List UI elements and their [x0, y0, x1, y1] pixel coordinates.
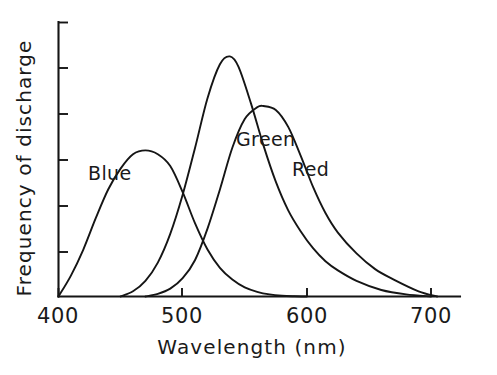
x-tick-label-600: 600 — [286, 304, 328, 328]
y-axis-title: Frequency of discharge — [12, 40, 36, 297]
x-axis-ticks — [59, 288, 432, 297]
x-tick-label-700: 700 — [410, 304, 452, 328]
y-axis-ticks — [59, 23, 69, 253]
x-tick-label-400: 400 — [37, 304, 79, 328]
chart-figure: 400 500 600 700 Wavelength (nm) Frequenc… — [0, 0, 497, 375]
curve-green — [121, 56, 431, 296]
x-tick-label-500: 500 — [161, 304, 203, 328]
x-axis-title: Wavelength (nm) — [157, 335, 346, 359]
x-tick-labels: 400 500 600 700 — [37, 304, 452, 328]
line-chart-svg: 400 500 600 700 Wavelength (nm) Frequenc… — [0, 0, 497, 375]
curve-label-blue: Blue — [88, 162, 132, 184]
curve-label-red: Red — [292, 158, 329, 180]
curve-label-green: Green — [236, 128, 296, 150]
